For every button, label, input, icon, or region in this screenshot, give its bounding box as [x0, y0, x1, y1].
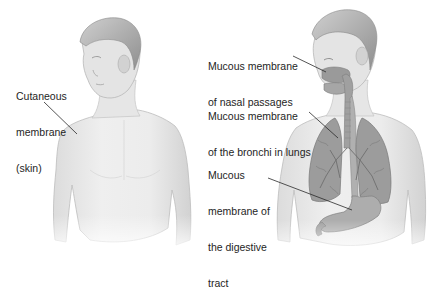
label-line: (skin) — [16, 162, 67, 174]
label-line: the digestive — [208, 241, 270, 253]
left-ear — [118, 55, 130, 73]
label-line: Cutaneous — [16, 90, 67, 102]
label-line: Mucous membrane — [208, 110, 311, 122]
right-ear — [356, 47, 368, 65]
left-fade — [40, 215, 210, 255]
label-line: membrane of — [208, 205, 270, 217]
right-fade — [270, 220, 440, 260]
label-line: Mucous — [208, 169, 270, 181]
label-cutaneous-membrane: Cutaneous membrane (skin) — [16, 66, 67, 198]
label-mucous-digestive: Mucous membrane of the digestive tract — [208, 145, 270, 291]
label-line: Mucous membrane — [208, 60, 298, 72]
label-line: tract — [208, 277, 270, 289]
label-line: membrane — [16, 126, 67, 138]
